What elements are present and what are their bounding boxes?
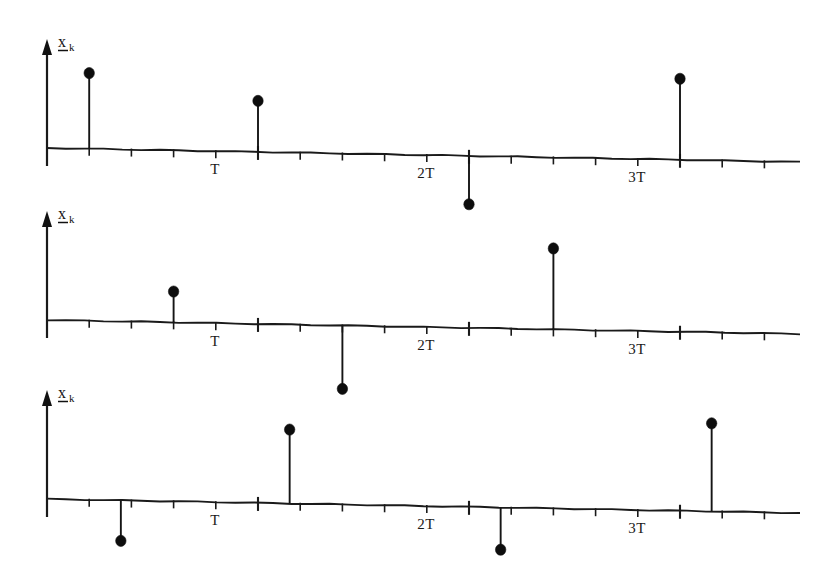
x-tick-label-2T: 2T	[417, 165, 434, 181]
sample-point[interactable]	[84, 68, 94, 79]
plot-panel-2: xkT2T3T	[42, 205, 800, 394]
amplitude-axis-label: x	[58, 384, 66, 401]
sample-point[interactable]	[168, 286, 178, 297]
amplitude-axis-label: x	[58, 33, 66, 50]
stem-3-4	[706, 418, 716, 512]
stem-3-3	[495, 507, 505, 555]
sample-point[interactable]	[706, 418, 716, 429]
sample-point[interactable]	[548, 243, 558, 254]
stem-3-2	[284, 424, 294, 504]
stem-2-1	[168, 286, 178, 322]
sample-point[interactable]	[116, 535, 126, 546]
time-axis-line	[47, 320, 800, 334]
amplitude-axis-arrowhead	[42, 390, 52, 406]
stem-plot-figure: xkT2T3TxkT2T3TxkT2T3T	[0, 0, 824, 576]
stem-2-3	[548, 243, 558, 330]
amplitude-axis-label-subscript: k	[69, 392, 75, 404]
x-tick-label-3T: 3T	[628, 169, 645, 185]
x-tick-label-T: T	[210, 161, 220, 177]
stem-2-2	[337, 325, 347, 394]
amplitude-axis-label: x	[58, 205, 66, 222]
sample-point[interactable]	[337, 383, 347, 394]
sample-point[interactable]	[253, 95, 263, 106]
x-tick-label-3T: 3T	[628, 520, 645, 536]
stem-1-3	[464, 156, 474, 210]
stem-3-1	[116, 500, 126, 546]
figure-root: xkT2T3TxkT2T3TxkT2T3T	[0, 0, 824, 576]
x-tick-label-T: T	[210, 512, 220, 528]
x-tick-label-2T: 2T	[417, 337, 434, 353]
sample-point[interactable]	[675, 73, 685, 84]
amplitude-axis-label-subscript: k	[69, 213, 75, 225]
amplitude-axis-arrowhead	[42, 39, 52, 55]
plot-panel-3: xkT2T3T	[42, 384, 800, 555]
sample-point[interactable]	[495, 544, 505, 555]
stem-1-4	[675, 73, 685, 160]
sample-point[interactable]	[284, 424, 294, 435]
sample-point[interactable]	[464, 199, 474, 210]
stem-1-2	[253, 95, 263, 152]
x-tick-label-3T: 3T	[628, 341, 645, 357]
plot-panel-1: xkT2T3T	[42, 33, 800, 210]
amplitude-axis-label-subscript: k	[69, 41, 75, 53]
time-axis-line	[47, 148, 800, 162]
x-tick-label-T: T	[210, 333, 220, 349]
time-axis-line	[47, 499, 800, 513]
x-tick-label-2T: 2T	[417, 516, 434, 532]
stem-1-1	[84, 68, 94, 149]
amplitude-axis-arrowhead	[42, 211, 52, 227]
